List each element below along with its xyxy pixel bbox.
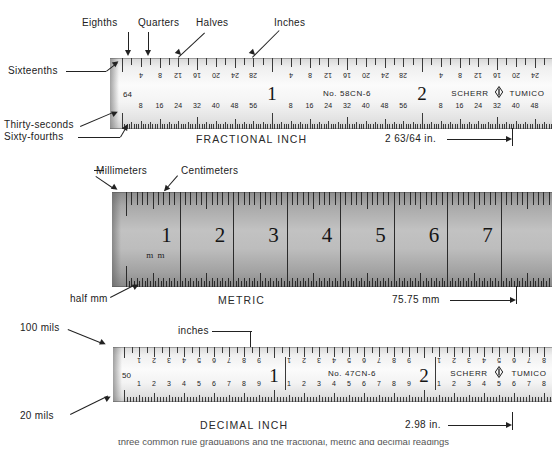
tick-mark (208, 397, 209, 402)
tick-mark (436, 192, 437, 205)
tick-mark (490, 278, 491, 287)
tick-mark (340, 397, 341, 402)
tick-mark (196, 397, 197, 402)
ruler-metric: 1234567 m m (112, 192, 552, 287)
tick-mark (522, 278, 523, 287)
tick-mark (158, 192, 159, 205)
tick-mark (340, 266, 341, 287)
tick-mark (469, 347, 470, 357)
tick-mark (259, 395, 260, 402)
scale-number: 16 (493, 72, 501, 79)
tick-mark (503, 281, 504, 287)
tick-mark (346, 397, 347, 402)
tick-mark (295, 397, 296, 402)
tick-mark (252, 281, 253, 287)
scale-number: 1 (437, 357, 441, 364)
tick-mark (385, 119, 386, 129)
tick-mark (321, 124, 322, 129)
tick-mark (201, 192, 202, 205)
tick-mark (197, 117, 198, 129)
tick-mark (207, 347, 208, 353)
scale-number: 48 (380, 102, 388, 109)
inch-numeral: 2 (417, 84, 427, 103)
tick-mark (476, 124, 477, 129)
tick-mark (206, 273, 207, 287)
tick-mark (305, 124, 306, 129)
tick-mark (452, 192, 453, 205)
scale-number: 16 (455, 102, 463, 109)
leader-100-mils (68, 329, 102, 343)
tick-mark (367, 192, 368, 209)
tick-mark (347, 58, 348, 70)
tick-mark (505, 397, 506, 402)
tick-mark (535, 397, 536, 402)
scale-number: 1 (137, 357, 141, 364)
tick-mark (406, 397, 407, 402)
tick-mark (310, 119, 311, 129)
tick-mark (391, 281, 392, 287)
tick-mark (163, 192, 164, 205)
scale-number: 16 (305, 102, 313, 109)
tick-mark (217, 397, 218, 402)
scale-number: 8 (439, 102, 443, 109)
tick-mark (329, 278, 330, 287)
tick-mark (387, 124, 388, 129)
scale-number: 3 (317, 380, 321, 387)
tick-mark (223, 124, 224, 129)
tick-mark (436, 124, 437, 129)
tick-mark (244, 122, 245, 129)
tick-mark (394, 393, 395, 402)
tick-mark (366, 121, 367, 129)
tick-mark (324, 192, 325, 205)
tick-mark (253, 58, 254, 67)
tick-mark (217, 278, 218, 287)
tick-mark (150, 281, 151, 287)
tick-mark (447, 266, 448, 287)
tick-mark (198, 281, 199, 287)
tick-mark (441, 58, 442, 67)
tick-mark (502, 397, 503, 402)
tick-mark (131, 192, 132, 205)
tick-mark (343, 397, 344, 402)
tick-mark (511, 278, 512, 287)
tick-mark (192, 124, 193, 129)
tick-mark (538, 397, 539, 402)
tick-mark (469, 122, 470, 129)
tick-mark (283, 397, 284, 402)
tick-mark (352, 124, 353, 129)
tick-mark (216, 121, 217, 129)
tick-mark (289, 395, 290, 402)
tick-mark (498, 281, 499, 287)
tick-mark (493, 397, 494, 402)
tick-mark (131, 122, 132, 129)
measurement-decimal: 2.98 in. (405, 419, 441, 430)
tick-mark (253, 397, 254, 402)
tick-mark (272, 58, 273, 72)
leader-eighths (128, 32, 129, 51)
tick-mark (396, 281, 397, 287)
tick-mark (506, 192, 507, 205)
tick-mark (278, 281, 279, 287)
tick-mark (478, 121, 479, 129)
tick-mark (495, 124, 496, 129)
tick-mark (276, 192, 277, 205)
tick-mark (439, 281, 440, 287)
tick-mark (281, 192, 282, 205)
scale-number: 4 (332, 357, 336, 364)
tick-mark (436, 397, 437, 402)
tick-mark (348, 281, 349, 287)
tick-mark (268, 397, 269, 402)
tick-mark (293, 124, 294, 129)
tick-mark (228, 192, 229, 205)
tick-mark (169, 278, 170, 287)
tick-mark (442, 278, 443, 287)
tick-mark (429, 124, 430, 129)
tick-mark (212, 278, 213, 287)
tick-mark (372, 192, 373, 205)
sixteenths-number-row: 4812162024284812162024284812162024 (110, 72, 552, 81)
tick-mark (549, 124, 550, 129)
tick-mark (218, 124, 219, 129)
tick-mark (458, 278, 459, 287)
leader-20-mils (70, 396, 108, 415)
tick-mark (403, 58, 404, 67)
